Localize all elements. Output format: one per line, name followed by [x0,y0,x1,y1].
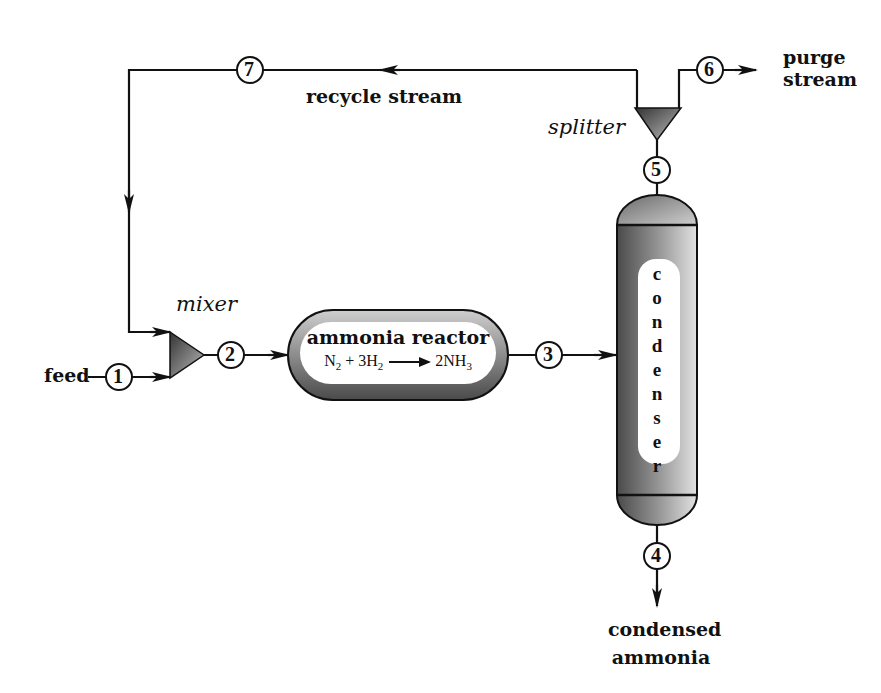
reactor-label: ammonia reactor [300,326,496,348]
condenser-bottom-dome [617,495,697,525]
reaction-equation: N2 + 3H2 2NH3 [300,352,496,372]
stream-7-number: 7 [244,58,254,81]
splitter-label: splitter [548,115,625,139]
stream-5-number: 5 [651,158,661,181]
condensed-ammonia-label: condensed ammonia [608,615,714,671]
stream-4-number: 4 [651,544,661,567]
condenser-top-dome [617,195,697,225]
purge-line1: purge [783,46,857,68]
stream-2-number: 2 [225,343,235,366]
stream-3-number: 3 [543,343,553,366]
condensed-line1: condensed [608,615,714,643]
mixer-icon [170,332,204,378]
feed-label: feed [44,364,90,386]
stream-6-number: 6 [704,58,714,81]
condenser-label: c o n d e n s e r [640,262,674,478]
splitter-icon [635,108,681,140]
mixer-label: mixer [176,292,237,316]
purge-stream-label: purge stream [783,46,857,90]
purge-line2: stream [783,68,857,90]
condensed-line2: ammonia [608,643,714,671]
reaction-arrow-icon [389,361,429,363]
recycle-stream-label: recycle stream [306,85,462,107]
stream-1-number: 1 [113,365,123,388]
